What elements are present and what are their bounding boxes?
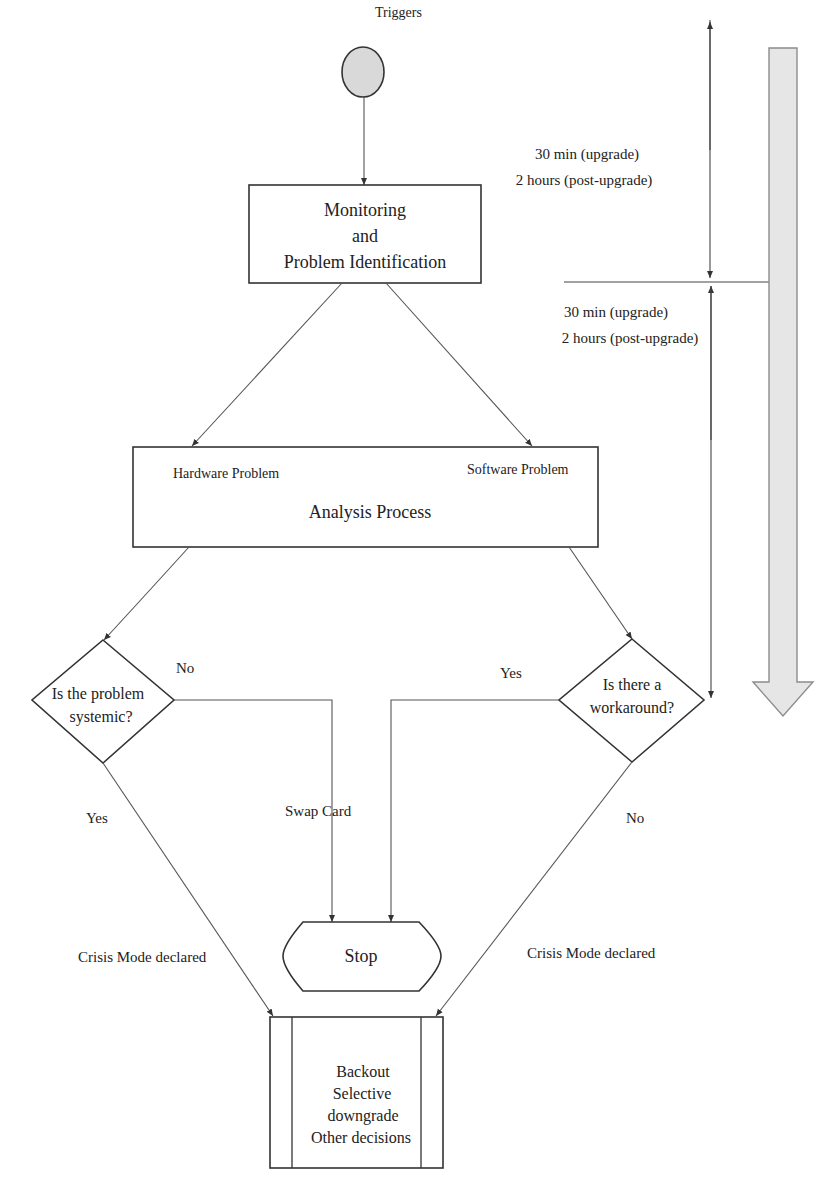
- monitoring-line-3: Problem Identification: [284, 252, 446, 272]
- software-problem-label: Software Problem: [467, 462, 569, 477]
- edge-workaround-no-to-outcome: [436, 762, 632, 1016]
- stop-label: Stop: [344, 946, 377, 966]
- monitoring-node: Monitoring and Problem Identification: [249, 185, 481, 283]
- edge-monitoring-to-hardware: [192, 283, 342, 446]
- crisis-left-label: Crisis Mode declared: [78, 949, 207, 965]
- timing-first-line-2: 2 hours (post-upgrade): [516, 172, 653, 189]
- flowchart-diagram: Triggers Monitoring and Problem Identifi…: [0, 0, 835, 1197]
- outcome-node: Backout Selective downgrade Other decisi…: [270, 1017, 443, 1168]
- workaround-no-label: No: [626, 810, 644, 826]
- workaround-yes-label: Yes: [500, 665, 522, 681]
- stop-node: Stop: [283, 922, 441, 991]
- decision-systemic-line-2: systemic?: [69, 708, 132, 726]
- start-node: Triggers: [342, 5, 422, 97]
- edge-analysis-to-systemic: [104, 547, 189, 640]
- monitoring-line-1: Monitoring: [324, 200, 406, 220]
- start-circle-icon: [342, 47, 384, 97]
- timing-first-line-1: 30 min (upgrade): [535, 146, 639, 163]
- swap-card-label: Swap Card: [285, 803, 352, 819]
- timing-second-line-2: 2 hours (post-upgrade): [562, 330, 699, 347]
- analysis-title: Analysis Process: [309, 502, 432, 522]
- timing-second-line-1: 30 min (upgrade): [564, 304, 668, 321]
- outcome-line-2: Selective: [333, 1085, 392, 1102]
- systemic-yes-label: Yes: [86, 810, 108, 826]
- decision-systemic: Is the problem systemic?: [32, 640, 174, 763]
- analysis-node: Hardware Problem Software Problem Analys…: [133, 447, 598, 547]
- outcome-line-3: downgrade: [327, 1107, 398, 1125]
- edge-systemic-yes-to-outcome: [103, 763, 273, 1016]
- systemic-no-label: No: [176, 660, 194, 676]
- outcome-line-1: Backout: [336, 1063, 390, 1080]
- decision-workaround-line-2: workaround?: [590, 699, 674, 716]
- edge-analysis-to-workaround: [569, 547, 632, 639]
- edge-monitoring-to-software: [386, 283, 532, 446]
- hardware-problem-label: Hardware Problem: [173, 466, 279, 481]
- start-label: Triggers: [375, 5, 422, 20]
- timeline-down-arrow-icon: [753, 48, 813, 716]
- decision-workaround: Is there a workaround?: [559, 639, 704, 762]
- timeline-dimension-arrows: [564, 20, 770, 698]
- outcome-line-4: Other decisions: [311, 1129, 411, 1146]
- decision-workaround-line-1: Is there a: [603, 676, 662, 693]
- crisis-right-label: Crisis Mode declared: [527, 945, 656, 961]
- monitoring-line-2: and: [352, 226, 378, 246]
- decision-systemic-line-1: Is the problem: [52, 685, 145, 703]
